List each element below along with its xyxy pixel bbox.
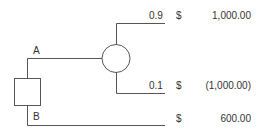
decision-node-square	[15, 79, 41, 106]
outcome-high-probability: 0.9	[149, 10, 163, 22]
chance-node-circle	[102, 45, 130, 73]
branch-b-value: 600.00	[220, 113, 251, 125]
outcome-low-value: (1,000.00)	[205, 80, 251, 92]
outcome-low-probability: 0.1	[149, 80, 163, 92]
branch-a-line	[28, 59, 103, 79]
branch-a-label: A	[33, 45, 40, 57]
outcome-high-line	[117, 24, 166, 45]
outcome-low-currency: $	[176, 80, 182, 92]
branch-b-line	[28, 105, 166, 126]
branch-b-currency: $	[176, 113, 182, 125]
branch-b-label: B	[33, 111, 40, 123]
outcome-high-currency: $	[176, 10, 182, 22]
outcome-high-value: 1,000.00	[212, 10, 251, 22]
